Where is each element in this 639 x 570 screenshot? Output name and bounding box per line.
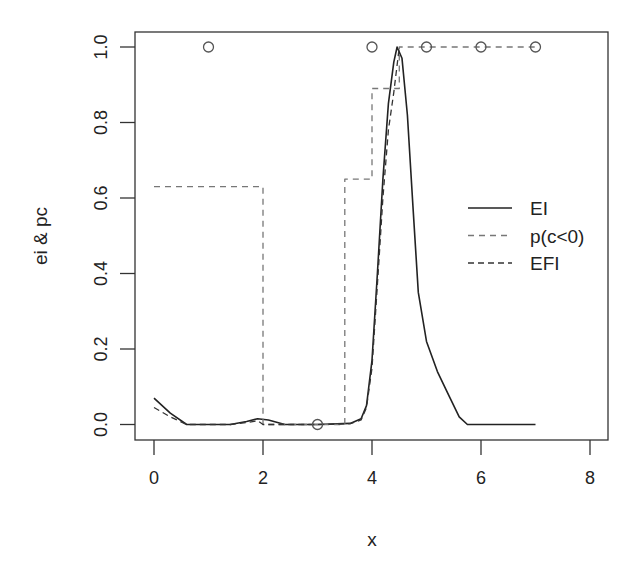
y-tick-label: 0.6 [91,185,111,210]
x-tick-label: 8 [585,468,595,488]
chart-container: 024680.00.20.40.60.81.0 EIp(c<0)EFI x ei… [0,0,639,570]
y-tick-label: 0.4 [91,261,111,286]
legend-label: EFI [530,253,560,274]
legend: EIp(c<0)EFI [468,198,584,274]
axes: 024680.00.20.40.60.81.0 [91,34,595,488]
x-tick-label: 2 [258,468,268,488]
x-tick-label: 4 [367,468,377,488]
x-axis-label: x [367,529,377,550]
series-layer [154,47,536,425]
legend-label: p(c<0) [530,226,584,247]
y-axis-label: ei & pc [30,207,51,265]
observation-point [367,42,377,52]
y-tick-label: 0.0 [91,412,111,437]
observation-point [204,42,214,52]
series-efi [154,47,399,425]
y-tick-label: 1.0 [91,34,111,59]
y-tick-label: 0.2 [91,336,111,361]
series-p-c-0 [154,47,536,425]
x-tick-label: 0 [149,468,159,488]
chart-svg: 024680.00.20.40.60.81.0 EIp(c<0)EFI x ei… [0,0,639,570]
y-tick-label: 0.8 [91,110,111,135]
legend-label: EI [530,198,548,219]
x-tick-label: 6 [476,468,486,488]
